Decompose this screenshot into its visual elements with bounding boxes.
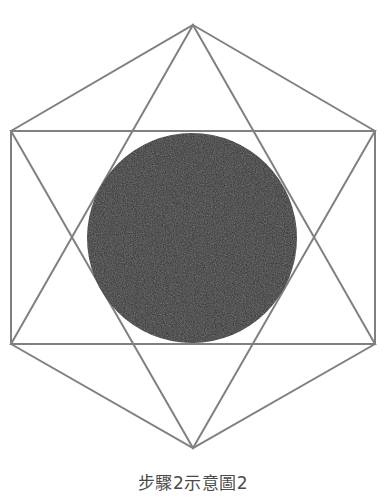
inscribed-circle — [87, 133, 297, 343]
figure-caption-bar: 步驟2示意圖2 — [0, 466, 386, 499]
geometry-diagram — [0, 0, 386, 499]
figure-container: 步驟2示意圖2 — [0, 0, 386, 499]
figure-caption: 步驟2示意圖2 — [138, 473, 248, 493]
